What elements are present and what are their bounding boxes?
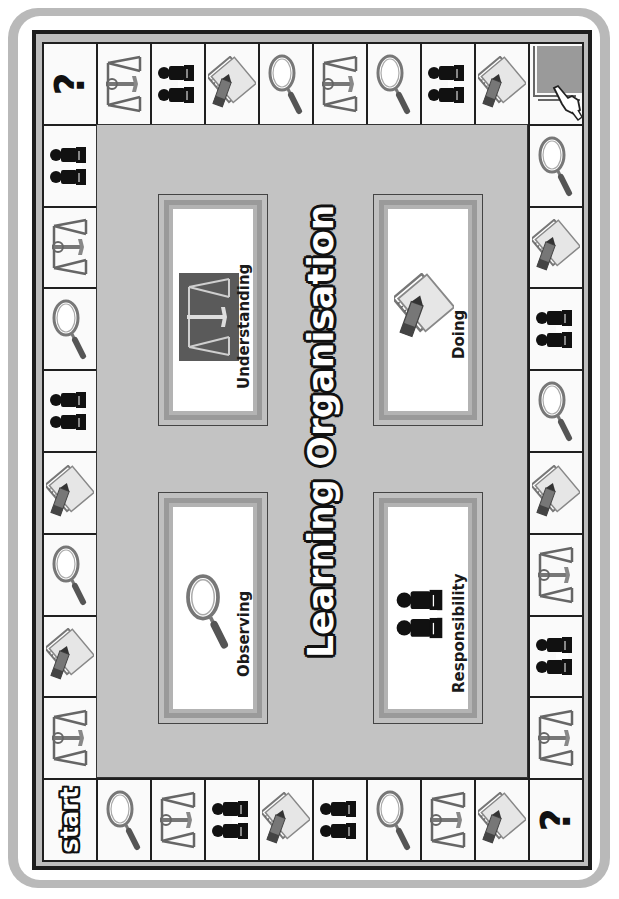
magnifier-icon [50,298,90,360]
space-scales[interactable] [42,696,98,780]
card-label: Doing [450,310,468,359]
space-people[interactable] [528,287,584,371]
notepad-pencil-icon [46,465,94,521]
notepad-pencil-icon [46,628,94,684]
scales-icon [179,273,239,365]
space-people[interactable] [150,42,206,126]
space-magnifier[interactable] [258,42,314,126]
space-scales[interactable] [528,533,584,617]
space-magnifier[interactable] [528,369,584,453]
notepad-pencil-icon [208,56,256,112]
people-icon [48,140,92,192]
people-icon [318,794,362,846]
hand-pointer-icon [530,44,582,122]
space-question-top-left[interactable]: ? [42,42,98,126]
space-scales[interactable] [528,696,584,780]
space-magnifier[interactable] [96,778,152,862]
magnifier-icon [536,380,576,442]
board-title: Learning Organisation [300,205,341,658]
notepad-pencil-icon [478,56,526,112]
scales-icon [48,707,92,769]
space-question-bottom-right[interactable]: ? [528,778,584,862]
people-icon [534,630,578,682]
space-notepad[interactable] [528,451,584,535]
scales-icon [156,789,200,851]
magnifier-icon [50,544,90,606]
magnifier-icon [104,789,144,851]
space-notepad[interactable] [42,615,98,699]
space-people[interactable] [420,42,476,126]
space-start[interactable]: start [42,778,98,862]
people-icon [156,58,200,110]
scales-icon [48,216,92,278]
people-icon [534,303,578,355]
magnifier-icon [374,789,414,851]
space-people[interactable] [204,778,260,862]
space-scales[interactable] [42,206,98,290]
notepad-pencil-icon [532,219,580,275]
question-mark-icon: ? [50,72,90,95]
space-scales[interactable] [150,778,206,862]
space-scales[interactable] [96,42,152,126]
space-magnifier[interactable] [366,42,422,126]
space-magnifier[interactable] [42,533,98,617]
space-notepad[interactable] [258,778,314,862]
space-people[interactable] [528,615,584,699]
card-responsibility[interactable]: Responsibility [373,492,483,724]
scales-icon [534,707,578,769]
card-label: Understanding [235,264,253,389]
magnifier-icon [183,569,233,657]
card-doing[interactable]: Doing [373,194,483,426]
scales-icon [534,544,578,606]
space-people[interactable] [312,778,368,862]
card-label: Observing [235,591,253,677]
space-magnifier[interactable] [366,778,422,862]
people-icon [48,385,92,437]
scales-icon [318,53,362,115]
people-icon [426,58,470,110]
scales-icon [426,789,470,851]
space-people[interactable] [42,369,98,453]
space-notepad[interactable] [204,42,260,126]
space-notepad[interactable] [528,206,584,290]
notepad-pencil-icon [532,465,580,521]
notepad-pencil-icon [478,792,526,848]
space-notepad[interactable] [474,778,530,862]
space-magnifier[interactable] [42,287,98,371]
notepad-pencil-icon [394,273,454,347]
magnifier-icon [536,135,576,197]
people-icon [210,794,254,846]
space-scales[interactable] [312,42,368,126]
notepad-pencil-icon [262,792,310,848]
magnifier-icon [266,53,306,115]
space-magnifier[interactable] [528,124,584,208]
space-people[interactable] [42,124,98,208]
space-notepad[interactable] [474,42,530,126]
start-label: start [56,787,84,852]
card-understanding[interactable]: Understanding [158,194,268,426]
card-observing[interactable]: Observing [158,492,268,724]
space-scales[interactable] [420,778,476,862]
space-notepad[interactable] [42,451,98,535]
space-pointer-top-right[interactable] [528,42,584,126]
question-mark-icon: ? [536,808,576,831]
scales-icon [102,53,146,115]
card-label: Responsibility [450,573,468,693]
magnifier-icon [374,53,414,115]
people-icon [394,581,450,651]
